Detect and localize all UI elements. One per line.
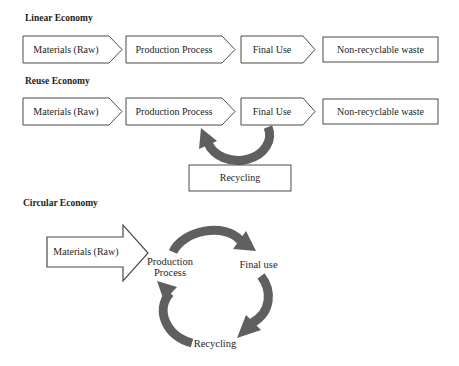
cycle-top-arrow-icon: [173, 230, 241, 252]
reuse-step-waste-label: Non-recyclable waste: [323, 99, 438, 124]
reuse-recycling-label: Recycling: [189, 165, 291, 191]
circular-economy-heading: Circular Economy: [23, 198, 98, 208]
circular-production-label: Production Process: [140, 253, 200, 281]
linear-economy-heading: Linear Economy: [25, 13, 93, 23]
reuse-return-arrow-icon: [208, 127, 270, 160]
cycle-right-arrow-icon: [252, 276, 268, 323]
reuse-step-finaluse-label: Final Use: [241, 98, 303, 125]
cycle-left-arrow-icon: [163, 293, 192, 343]
circular-finaluse-label: Final use: [238, 252, 279, 278]
reuse-step-materials-label: Materials (Raw): [23, 98, 109, 125]
linear-step-production-label: Production Process: [126, 36, 222, 63]
economy-diagram: Linear Economy Reuse Economy Circular Ec…: [0, 0, 459, 366]
circular-recycling-label: Recycling: [183, 337, 247, 351]
reuse-step-production-label: Production Process: [126, 98, 222, 125]
linear-step-waste-label: Non-recyclable waste: [323, 37, 438, 62]
reuse-economy-heading: Reuse Economy: [25, 76, 90, 86]
linear-step-materials-label: Materials (Raw): [23, 36, 109, 63]
linear-step-finaluse-label: Final Use: [241, 36, 303, 63]
circular-materials-label: Materials (Raw): [49, 238, 123, 266]
